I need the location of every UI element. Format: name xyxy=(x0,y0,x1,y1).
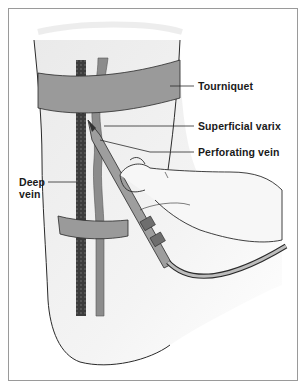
label-superficial-varix: Superficial varix xyxy=(198,120,281,132)
label-deep-vein: Deep vein xyxy=(19,176,45,200)
label-tourniquet: Tourniquet xyxy=(198,80,253,92)
leg-illustration xyxy=(0,0,304,389)
label-deep-vein-line2: vein xyxy=(19,188,45,200)
label-deep-vein-line1: Deep xyxy=(19,176,45,188)
label-perforating-vein: Perforating vein xyxy=(198,146,280,158)
